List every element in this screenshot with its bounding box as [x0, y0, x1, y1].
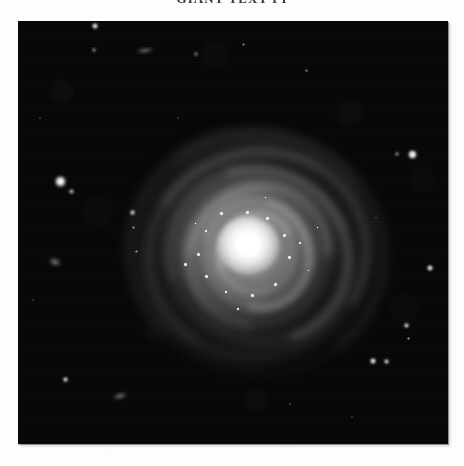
star-west-faint: [32, 299, 34, 301]
star-southwest: [63, 377, 68, 382]
galaxy-knot-2: [266, 217, 269, 220]
spiral-galaxy: [248, 245, 249, 246]
galaxy-knot-1: [246, 211, 250, 215]
figure-caption-clip: GIANT TEXT PI: [0, 0, 464, 7]
star-top-north: [92, 23, 98, 29]
galaxy-knot-14: [236, 307, 239, 310]
star-right-upper: [404, 323, 409, 328]
star-north-faint: [305, 69, 308, 72]
star-bright-northeast: [408, 150, 417, 159]
galaxy-knot-6: [251, 294, 254, 297]
astronomical-image-plate: [18, 21, 448, 444]
star-upper-left: [92, 48, 96, 52]
galaxy-knot-10: [204, 229, 207, 232]
figure-caption: GIANT TEXT PI: [0, 0, 464, 7]
galaxy-knot-8: [205, 275, 209, 279]
scan-grain: [18, 21, 448, 444]
star-double-left: [370, 358, 376, 364]
star-northwest-faint: [39, 117, 41, 119]
galaxy-knot-3: [283, 234, 286, 237]
star-upper-mid: [194, 52, 198, 56]
star-companion-west: [69, 189, 74, 194]
star-east-mid: [427, 265, 433, 271]
galaxy-knot-12: [298, 241, 301, 244]
star-companion-northeast: [395, 152, 399, 156]
star-mid-left-b: [132, 226, 135, 229]
sky-background: [18, 21, 448, 444]
galaxy-knot-9: [197, 253, 200, 256]
galaxy-knot-4: [288, 256, 292, 260]
star-right-lower: [407, 337, 410, 340]
star-mid-left-a: [130, 210, 135, 215]
star-mid-left-c: [135, 250, 138, 253]
star-center-north-faint: [177, 117, 179, 119]
galaxy-knot-7: [224, 290, 227, 293]
star-upper-right: [242, 43, 245, 46]
star-double-right: [384, 359, 389, 364]
page-root: GIANT TEXT PI: [0, 0, 464, 466]
star-bright-west: [55, 176, 66, 187]
star-southeast-faint: [351, 416, 353, 418]
star-south-faint: [289, 403, 291, 405]
galaxy-knot-5: [274, 283, 277, 286]
galaxy-knot-11: [220, 212, 223, 215]
star-east-north-faint: [375, 217, 377, 219]
